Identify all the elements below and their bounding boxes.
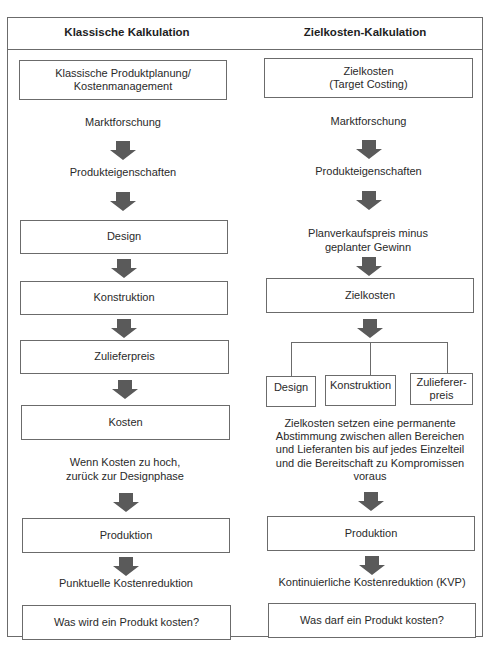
- box-zielkosten-line2: (Target Costing): [329, 78, 407, 92]
- text-kontinuierliche-kostenreduktion: Kontinuierliche Kostenreduktion (KVP): [262, 576, 482, 590]
- text-zielkosten-abstimmung: Zielkosten setzen eine permanente Abstim…: [275, 417, 465, 483]
- box-produktion-right-label: Produktion: [345, 527, 398, 541]
- text-marktforschung-right: Marktforschung: [264, 115, 473, 129]
- text-punktuelle-kostenreduktion: Punktuelle Kostenreduktion: [22, 577, 230, 591]
- box-klassische-produktplanung: Klassische Produktplanung/ Kostenmanagem…: [19, 60, 227, 100]
- header-zielkosten-kalkulation: Zielkosten-Kalkulation: [247, 26, 483, 38]
- box-zielkosten-target-costing: Zielkosten (Target Costing): [264, 58, 473, 98]
- text-marktforschung-left: Marktforschung: [19, 116, 227, 130]
- down-arrow-icon: [112, 380, 138, 399]
- text-kosten-zu-hoch: Wenn Kosten zu hoch, zurück zur Designph…: [60, 456, 190, 483]
- down-arrow-icon: [358, 492, 384, 511]
- box-was-wird-label: Was wird ein Produkt kosten?: [54, 616, 199, 630]
- box-produktion-left-label: Produktion: [100, 529, 153, 543]
- down-arrow-icon: [356, 257, 382, 276]
- box-konstruktion-left-label: Konstruktion: [93, 291, 154, 305]
- box-was-wird-ein-produkt-kosten: Was wird ein Produkt kosten?: [22, 605, 231, 640]
- header-divider: [7, 49, 483, 50]
- box-branch-zuliefererpreis-label: Zulieferer-preis: [417, 376, 467, 403]
- down-arrow-icon: [113, 557, 139, 576]
- box-branch-konstruktion: Konstruktion: [325, 375, 396, 406]
- text-planverkaufspreis: Planverkaufspreis minus geplanter Gewinn: [300, 227, 436, 254]
- box-kosten-left-label: Kosten: [108, 416, 142, 430]
- down-arrow-icon: [110, 192, 136, 211]
- box-zielkosten: Zielkosten: [266, 278, 474, 313]
- box-zulieferpreis-left: Zulieferpreis: [20, 340, 229, 374]
- box-was-darf-ein-produkt-kosten: Was darf ein Produkt kosten?: [268, 603, 476, 638]
- down-arrow-icon: [111, 259, 137, 278]
- box-design-left-label: Design: [107, 230, 141, 244]
- down-arrow-icon: [359, 556, 385, 575]
- text-produkteigenschaften-right: Produkteigenschaften: [264, 165, 473, 179]
- box-zielkosten-line1: Zielkosten: [343, 65, 393, 79]
- down-arrow-icon: [111, 319, 137, 338]
- box-branch-design: Design: [266, 376, 316, 407]
- box-branch-design-label: Design: [274, 381, 308, 395]
- box-konstruktion-left: Konstruktion: [20, 281, 228, 315]
- down-arrow-icon: [356, 140, 382, 159]
- branch-line-konstruktion: [370, 342, 371, 375]
- box-branch-zuliefererpreis: Zulieferer-preis: [410, 373, 473, 405]
- box-zielkosten-label: Zielkosten: [345, 289, 395, 303]
- down-arrow-icon: [110, 141, 136, 160]
- text-produkteigenschaften-left: Produkteigenschaften: [19, 166, 227, 180]
- branch-line-zulieferer: [447, 342, 448, 373]
- down-arrow-icon: [356, 191, 382, 210]
- box-klassische-produktplanung-label: Klassische Produktplanung/ Kostenmanagem…: [48, 67, 198, 94]
- down-arrow-icon: [113, 493, 139, 512]
- box-branch-konstruktion-label: Konstruktion: [330, 379, 391, 393]
- box-produktion-left: Produktion: [22, 518, 230, 553]
- down-arrow-icon: [357, 319, 383, 338]
- box-kosten-left: Kosten: [21, 405, 230, 440]
- box-produktion-right: Produktion: [267, 516, 475, 551]
- branch-line-design: [291, 342, 292, 376]
- box-was-darf-label: Was darf ein Produkt kosten?: [300, 614, 444, 628]
- header-klassische-kalkulation: Klassische Kalkulation: [7, 26, 247, 38]
- box-design-left: Design: [20, 220, 228, 254]
- box-zulieferpreis-left-label: Zulieferpreis: [94, 350, 155, 364]
